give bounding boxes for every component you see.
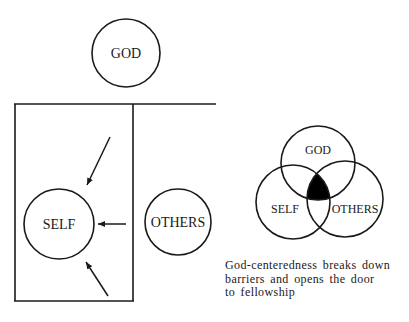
- god-centered-venn: GOD SELF OTHERS: [256, 126, 383, 239]
- self-label: SELF: [43, 217, 76, 232]
- caption-line-3: to fellowship: [225, 286, 409, 300]
- venn-others-label: OTHERS: [332, 202, 379, 216]
- venn-caption: God-centeredness breaks down barriers an…: [225, 259, 409, 300]
- venn-self-label: SELF: [271, 202, 299, 216]
- others-label: OTHERS: [151, 215, 205, 230]
- venn-god-label: GOD: [305, 143, 331, 157]
- arrow-from-bottom: [86, 262, 108, 296]
- arrow-from-top: [87, 137, 110, 185]
- self-centered-diagram: GOD SELF OTHERS: [14, 19, 216, 301]
- caption-line-2: barriers and opens the door: [225, 273, 409, 287]
- caption-line-1: God-centeredness breaks down: [225, 259, 409, 273]
- god-label: GOD: [111, 46, 141, 61]
